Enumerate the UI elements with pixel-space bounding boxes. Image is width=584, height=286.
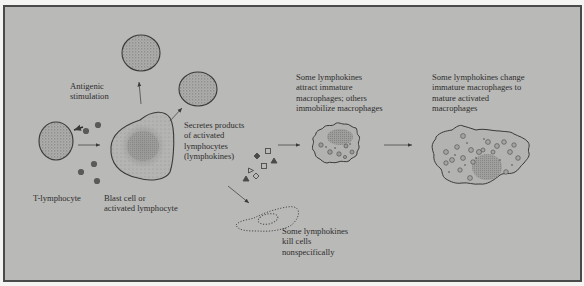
immature-macrophage: [312, 123, 359, 163]
daughter-lymphocyte-right: [179, 72, 217, 106]
mature-activated-macrophage: [432, 125, 529, 184]
label-attract-macrophages: Some lymphokines attract immature macrop…: [296, 72, 383, 114]
binding-arrow: [74, 127, 83, 130]
label-antigenic-stimulation: Antigenic stimulation: [70, 81, 109, 102]
t-lymphocyte-cell: [39, 122, 73, 160]
label-secretes-products: Secretes products of activated lymphocyt…: [184, 120, 244, 162]
label-kill-cells: Some lymphokines kill cells nonspecifica…: [282, 226, 348, 257]
antigen-particles: [78, 122, 101, 184]
arrow-to-killed-cell: [228, 186, 249, 203]
arrow-to-top-cell: [139, 82, 141, 104]
label-change-macrophages: Some lymphokines change immature macroph…: [432, 72, 525, 114]
arrow-to-right-cell: [170, 108, 182, 121]
label-t-lymphocyte: T-lymphocyte: [33, 193, 81, 203]
blast-cell: [111, 112, 174, 180]
lymphokine-symbols: [243, 149, 277, 182]
label-blast-cell: Blast cell or activated lymphocyte: [104, 193, 178, 214]
daughter-lymphocyte-top: [122, 35, 160, 71]
